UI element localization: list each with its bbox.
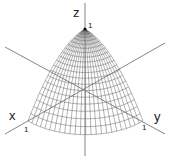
apex-point [83, 27, 86, 30]
y-axis-label: y [154, 110, 161, 123]
mesh-meridian [85, 29, 143, 121]
paraboloid-figure [0, 0, 169, 163]
surface-mesh [28, 29, 143, 135]
x-tick-label: 1 [24, 126, 28, 134]
axes [5, 3, 165, 156]
x-axis-label: x [9, 109, 16, 122]
z-axis-label: z [73, 6, 80, 19]
z-tick-label: 1 [88, 22, 92, 30]
y-tick-label: 1 [142, 124, 146, 132]
